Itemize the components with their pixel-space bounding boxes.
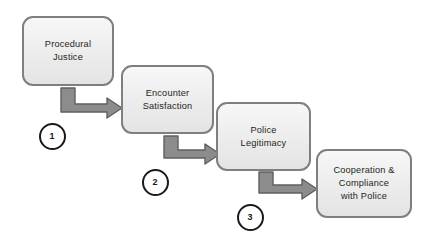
connector-2-arrow (164, 136, 220, 164)
step-marker-3[interactable]: 3 (237, 204, 264, 231)
step-marker-2-label: 2 (152, 178, 157, 187)
connector-1-arrow (61, 88, 122, 118)
step-marker-2[interactable]: 2 (142, 169, 169, 196)
connector-3-arrow (259, 172, 317, 199)
node-cooperation-compliance-label: Cooperation & Compliance with Police (329, 164, 398, 203)
step-marker-1-label: 1 (49, 132, 54, 141)
step-marker-1[interactable]: 1 (39, 123, 66, 150)
node-procedural-justice-label: Procedural Justice (41, 38, 95, 64)
node-police-legitimacy-label: Police Legitimacy (237, 124, 291, 150)
step-marker-3-label: 3 (247, 213, 252, 222)
node-police-legitimacy[interactable]: Police Legitimacy (216, 102, 311, 171)
node-encounter-satisfaction[interactable]: Encounter Satisfaction (121, 65, 214, 134)
node-encounter-satisfaction-label: Encounter Satisfaction (139, 87, 197, 113)
flow-diagram-canvas: Procedural Justice Encounter Satisfactio… (0, 0, 431, 244)
node-procedural-justice[interactable]: Procedural Justice (22, 16, 114, 86)
node-cooperation-compliance[interactable]: Cooperation & Compliance with Police (316, 149, 412, 218)
